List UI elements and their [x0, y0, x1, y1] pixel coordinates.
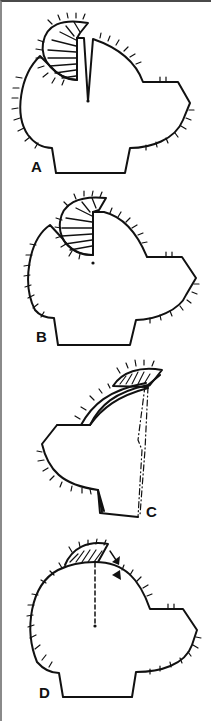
triangle-marker-d	[112, 570, 121, 580]
center-point-a	[86, 99, 89, 102]
panel-c	[37, 360, 162, 517]
diagram-canvas	[0, 0, 211, 721]
panel-d	[27, 539, 201, 697]
head-outline-c	[42, 375, 160, 517]
panel-label-a: A	[31, 158, 42, 175]
panel-a	[12, 13, 194, 173]
head-outline-d	[30, 562, 197, 697]
advance-arrow-d	[110, 551, 116, 560]
panel-label-c: C	[146, 503, 157, 520]
panel-label-b: B	[36, 328, 47, 345]
center-point-b	[91, 261, 94, 264]
panel-b	[24, 191, 199, 345]
panel-label-d: D	[39, 684, 50, 701]
flap-strip-c	[81, 383, 148, 425]
dash-dot-line-2-c	[140, 387, 148, 515]
head-outline-b	[28, 212, 196, 345]
hair-ticks-d	[27, 539, 201, 674]
center-point-d	[93, 624, 96, 627]
advance-arrowhead-d	[112, 556, 120, 565]
flap-b	[60, 197, 106, 255]
